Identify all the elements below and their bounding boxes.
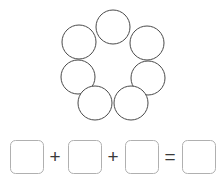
equation-row: ++=: [0, 134, 224, 180]
worksheet-canvas: ++= 7 □ + □ + □ = □: [0, 0, 224, 180]
plus-1-symbol: +: [49, 146, 60, 167]
circle-top-center: [96, 10, 130, 44]
addend-box-3[interactable]: [126, 141, 159, 174]
circle-upper-left: [62, 25, 96, 59]
circle-upper-right: [130, 26, 164, 60]
addend-box-2[interactable]: [69, 141, 102, 174]
equals-1-symbol: =: [164, 146, 175, 167]
plus-2-symbol: +: [107, 146, 118, 167]
addend-box-1[interactable]: [11, 141, 44, 174]
circle-cluster-svg: [0, 0, 224, 128]
sum-box[interactable]: [183, 141, 216, 174]
circles-group: [61, 10, 165, 120]
circle-cluster: [0, 0, 224, 128]
circle-bottom-right: [114, 86, 148, 120]
equation-svg: ++=: [0, 134, 224, 180]
circle-bottom-left: [78, 86, 112, 120]
